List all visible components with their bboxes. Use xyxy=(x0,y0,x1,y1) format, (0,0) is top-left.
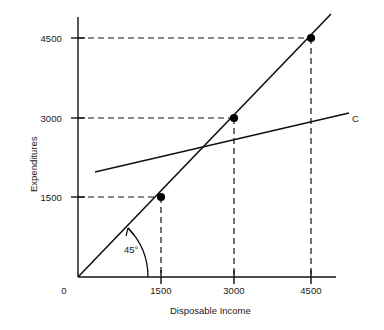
y-tick-label-4500: 4500 xyxy=(20,33,62,44)
y-tick-label-3000: 3000 xyxy=(20,113,62,124)
x-tick-label-0: 0 xyxy=(53,285,75,296)
data-point-4500 xyxy=(307,34,315,42)
chart-figure: 4500 3000 1500 0 1500 3000 4500 Expendit… xyxy=(0,0,384,330)
x-axis-title: Disposable Income xyxy=(170,305,251,316)
axis-lines xyxy=(78,17,336,277)
series-45-degree-line xyxy=(78,14,331,277)
y-tick-label-1500: 1500 xyxy=(20,192,62,203)
x-tick-label-4500: 4500 xyxy=(289,285,333,296)
x-tick-label-3000: 3000 xyxy=(212,285,256,296)
data-point-1500 xyxy=(157,193,165,201)
y-axis-title: Expenditures xyxy=(28,137,39,192)
chart-plot-area xyxy=(0,0,384,330)
consumption-line-label: C xyxy=(352,113,359,124)
x-tick-label-1500: 1500 xyxy=(139,285,183,296)
angle-annotation-label: 45° xyxy=(124,244,138,255)
data-point-3000 xyxy=(230,114,238,122)
